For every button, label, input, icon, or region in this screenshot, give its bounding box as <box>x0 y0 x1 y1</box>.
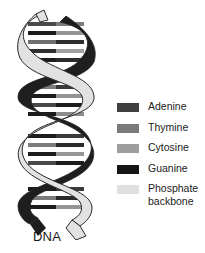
adenine-swatch <box>117 103 139 112</box>
base-pair-left <box>28 143 56 147</box>
dark-backbone-strand <box>18 16 95 224</box>
base-pair-left <box>28 22 56 26</box>
base-pair-left <box>28 31 56 35</box>
thymine-swatch <box>117 124 139 133</box>
base-pair-left <box>28 152 56 156</box>
base-pair-right <box>56 161 84 165</box>
base-pair-right <box>56 143 84 147</box>
legend-item-phosphate-backbone: Phosphate backbone <box>117 182 198 203</box>
base-pair-right <box>56 94 84 98</box>
base-pair-left <box>28 205 56 209</box>
dna-caption: DNA <box>33 229 61 244</box>
light-strand-top-cap <box>36 10 48 22</box>
legend-label: Cytosine <box>148 141 189 154</box>
legend-item-thymine: Thymine <box>117 121 198 142</box>
legend-item-cytosine: Cytosine <box>117 141 198 162</box>
legend-item-adenine: Adenine <box>117 100 198 121</box>
base-pair-right <box>56 103 84 107</box>
base-pair-left <box>28 40 56 44</box>
base-pair-right <box>56 152 84 156</box>
legend-label-line1: Phosphate <box>148 182 198 194</box>
guanine-swatch <box>117 165 139 174</box>
legend-label: Guanine <box>148 162 188 175</box>
dna-double-helix <box>0 0 110 240</box>
cytosine-swatch <box>117 144 139 153</box>
legend: Adenine Thymine Cytosine Guanine Phospha… <box>117 100 198 203</box>
legend-label-line2: backbone <box>148 195 194 207</box>
base-pair-right <box>56 31 84 35</box>
phosphate-backbone-swatch <box>117 185 139 194</box>
legend-label: Phosphate backbone <box>148 182 198 208</box>
legend-label: Thymine <box>148 121 188 134</box>
base-pair-left <box>28 134 56 138</box>
base-pair-right <box>56 134 84 138</box>
legend-label: Adenine <box>148 100 187 113</box>
legend-item-guanine: Guanine <box>117 162 198 183</box>
base-pair-right <box>56 40 84 44</box>
base-pair-left <box>28 161 56 165</box>
base-pair-right <box>56 205 84 209</box>
base-pair-right <box>56 49 84 53</box>
